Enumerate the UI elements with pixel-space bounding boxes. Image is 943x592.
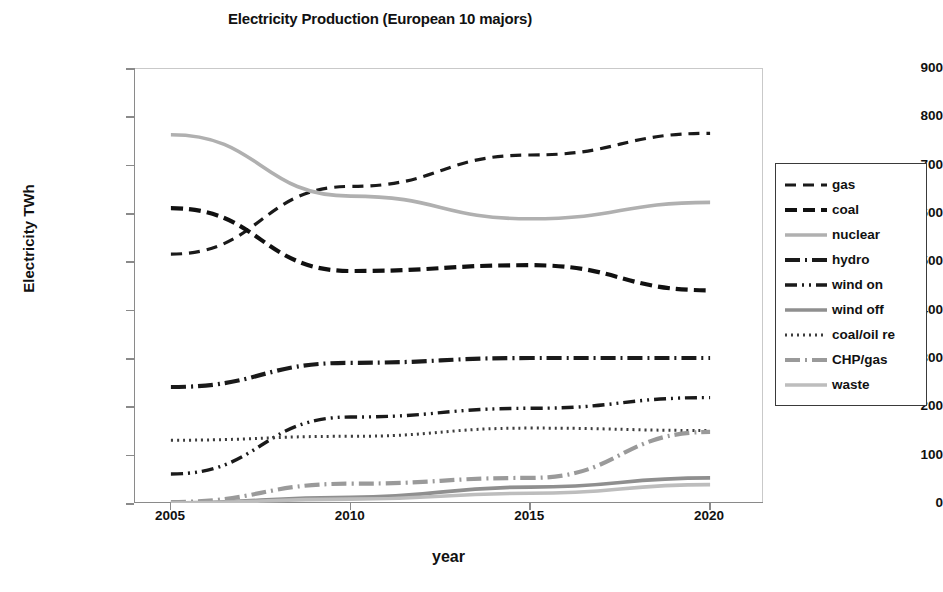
legend-item-nuclear[interactable]: nuclear (784, 222, 920, 247)
legend-label: waste (832, 377, 870, 392)
legend-item-wind-off[interactable]: wind off (784, 297, 920, 322)
x-tick-mark (170, 503, 172, 510)
legend-label: wind off (832, 302, 884, 317)
series-line-hydro (171, 358, 710, 387)
legend-line-swatch (784, 253, 828, 267)
legend-label: gas (832, 177, 855, 192)
y-tick-label: 100 (891, 447, 943, 462)
legend-label: CHP/gas (832, 352, 888, 367)
legend-label: coal/oil re (832, 327, 895, 342)
y-axis-label: Electricity TWh (20, 139, 37, 339)
series-line-wind-on (171, 398, 710, 474)
series-line-coal-oil-re (171, 428, 710, 440)
chart-title: Electricity Production (European 10 majo… (0, 10, 760, 27)
x-tick-mark (350, 503, 352, 510)
plot-area (134, 68, 763, 503)
series-line-coal (171, 208, 710, 290)
legend-line-swatch (784, 203, 828, 217)
legend-item-chp-gas[interactable]: CHP/gas (784, 347, 920, 372)
legend-line-swatch (784, 303, 828, 317)
legend-item-gas[interactable]: gas (784, 172, 920, 197)
legend-item-wind-on[interactable]: wind on (784, 272, 920, 297)
y-tick-mark (126, 213, 134, 215)
legend-label: wind on (832, 277, 883, 292)
legend-line-swatch (784, 228, 828, 242)
legend-line-swatch (784, 178, 828, 192)
y-tick-mark (126, 116, 134, 118)
y-tick-mark (126, 406, 134, 408)
plot-right-border (762, 68, 763, 502)
series-line-gas (171, 133, 710, 254)
legend-item-waste[interactable]: waste (784, 372, 920, 397)
legend-item-hydro[interactable]: hydro (784, 247, 920, 272)
legend-line-swatch (784, 353, 828, 367)
series-lines (135, 68, 764, 503)
y-tick-mark (126, 358, 134, 360)
x-tick-label: 2010 (315, 508, 385, 523)
x-tick-label: 2005 (135, 508, 205, 523)
x-tick-label: 2020 (674, 508, 744, 523)
x-tick-mark (709, 503, 711, 510)
legend-label: nuclear (832, 227, 880, 242)
y-tick-mark (126, 165, 134, 167)
legend-item-coal[interactable]: coal (784, 197, 920, 222)
legend-label: coal (832, 202, 859, 217)
legend-line-swatch (784, 378, 828, 392)
x-tick-mark (529, 503, 531, 510)
legend-line-swatch (784, 278, 828, 292)
y-tick-label: 900 (891, 60, 943, 75)
legend-line-swatch (784, 328, 828, 342)
chart-screenshot: Electricity Production (European 10 majo… (0, 0, 943, 592)
y-tick-mark (126, 261, 134, 263)
y-tick-label: 0 (891, 495, 943, 510)
y-tick-mark (126, 68, 134, 70)
legend-item-coal-oil-re[interactable]: coal/oil re (784, 322, 920, 347)
y-tick-mark (126, 455, 134, 457)
y-tick-label: 800 (891, 108, 943, 123)
plot-top-border (135, 68, 763, 69)
x-tick-label: 2015 (494, 508, 564, 523)
y-tick-mark (126, 503, 134, 505)
legend-label: hydro (832, 252, 870, 267)
y-tick-mark (126, 310, 134, 312)
chart-legend: gascoalnuclearhydrowind onwind offcoal/o… (775, 163, 927, 406)
series-line-nuclear (171, 135, 710, 219)
x-axis-label: year (134, 548, 763, 566)
